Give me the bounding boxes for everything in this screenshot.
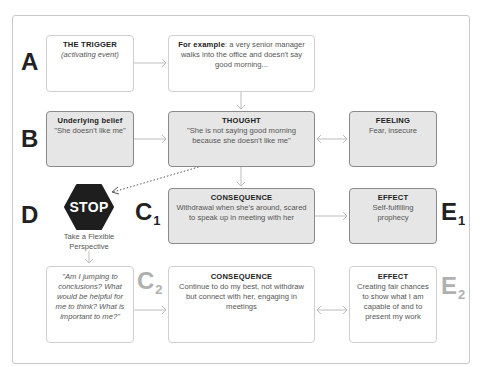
trigger-box: THE TRIGGER (activating event) (46, 35, 134, 92)
row-letter-a: A (21, 50, 38, 74)
questions-box: "Am I jumping to conclusions? What would… (46, 266, 134, 343)
belief-box: Underlying belief "She doesn't like me" (46, 111, 134, 167)
consequence-1-text: Withdrawal when she's around, scared to … (175, 203, 308, 223)
letter-text: E (441, 272, 457, 299)
belief-title: Underlying belief (53, 116, 127, 126)
consequence-2-title: CONSEQUENCE (177, 272, 306, 282)
example-box: For example: a very senior manager walks… (168, 35, 315, 92)
row-letter-e2: E2 (441, 274, 465, 302)
row-letter-b: B (21, 127, 38, 151)
letter-subscript: 2 (155, 282, 162, 297)
feeling-box: FEELING Fear, insecure (349, 111, 437, 167)
row-letter-e1: E1 (441, 200, 465, 228)
stop-sign-text: STOP (64, 197, 114, 217)
letter-text: C (135, 198, 152, 225)
trigger-title: THE TRIGGER (53, 40, 127, 50)
thought-box: THOUGHT "She is not saying good morning … (168, 111, 315, 167)
consequence-2-text: Continue to do my best, not withdraw but… (177, 282, 306, 312)
effect-2-text: Creating fair chances to show what I am … (356, 282, 430, 322)
letter-subscript: 2 (458, 287, 465, 302)
letter-text: E (441, 198, 457, 225)
letter-subscript: 1 (153, 213, 160, 228)
feeling-title: FEELING (356, 116, 430, 126)
effect-1-title: EFFECT (362, 193, 424, 203)
letter-text: C (137, 267, 154, 294)
effect-2-box: EFFECT Creating fair chances to show wha… (349, 266, 437, 343)
belief-text: "She doesn't like me" (53, 126, 127, 136)
consequence-1-title: CONSEQUENCE (175, 193, 308, 203)
questions-text: "Am I jumping to conclusions? What would… (53, 272, 127, 322)
effect-1-text: Self-fulfilling prophecy (362, 203, 424, 223)
feeling-text: Fear, insecure (356, 126, 430, 136)
thought-title: THOUGHT (179, 116, 304, 126)
consequence-2-box: CONSEQUENCE Continue to do my best, not … (168, 266, 315, 343)
row-letter-c2: C2 (137, 269, 163, 297)
stop-label: Take a Flexible Perspective (52, 232, 126, 252)
thought-text: "She is not saying good morning because … (179, 126, 304, 146)
row-letter-c1: C1 (135, 200, 161, 228)
effect-1-box: EFFECT Self-fulfilling prophecy (349, 188, 437, 244)
effect-2-title: EFFECT (356, 272, 430, 282)
trigger-subtitle: (activating event) (53, 50, 127, 60)
letter-subscript: 1 (458, 213, 465, 228)
row-letter-d: D (21, 203, 38, 227)
example-label: For example (178, 40, 225, 49)
consequence-1-box: CONSEQUENCE Withdrawal when she's around… (168, 188, 315, 244)
